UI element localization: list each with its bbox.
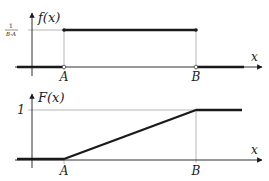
level-label-denominator: B-A [5, 31, 16, 37]
top-a-label: A [59, 70, 69, 84]
top-b-label: B [191, 70, 201, 84]
bottom-b-label: B [191, 164, 201, 178]
f-axis-label: f(x) [37, 10, 60, 25]
uniform-distribution-diagram: f(x) x 1 B-A A B F(x) x 1 A B [0, 0, 269, 181]
open-point-a [62, 65, 66, 69]
bottom-a-label: A [59, 164, 69, 178]
open-point-b [194, 65, 198, 69]
cdf-curve [17, 110, 242, 159]
top-x-axis-label: x [251, 50, 258, 64]
filled-point-b [194, 28, 198, 32]
one-level-label: 1 [17, 103, 25, 117]
cdf-panel: F(x) x 1 A B [15, 90, 262, 178]
bottom-x-axis-label: x [251, 143, 258, 157]
filled-point-a [62, 28, 66, 32]
density-panel: f(x) x 1 B-A A B [5, 10, 262, 84]
level-label-numerator: 1 [9, 22, 13, 29]
F-axis-label: F(x) [37, 90, 65, 105]
